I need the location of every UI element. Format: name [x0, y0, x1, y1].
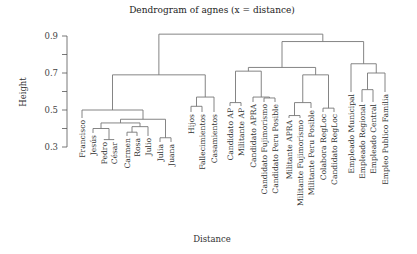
y-axis-label: Height — [18, 77, 28, 107]
leaf-label: Militante Peru Posible — [307, 109, 316, 195]
dendrogram-chart: Dendrogram of agnes (x = distance) 0.30.… — [0, 0, 417, 254]
leaf-label: Empleado Central — [369, 103, 378, 173]
leaf-label: Jesús — [89, 135, 98, 156]
leaf-label: César — [110, 142, 119, 165]
x-axis-label: Distance — [193, 234, 231, 244]
leaf-label: Militante AP — [237, 108, 246, 156]
leaf-label: Empleo Publico Familia — [381, 94, 390, 185]
y-tick-label: 0.7 — [44, 68, 58, 78]
leaf-label: Candidato RegLoc — [330, 114, 339, 185]
leaf-label: Candidato APRA — [249, 103, 258, 167]
leaf-label: Empleado Municipal — [347, 93, 356, 173]
chart-title: Dendrogram of agnes (x = distance) — [129, 5, 295, 15]
leaf-label: Julio — [144, 138, 153, 157]
leaf-label: Fallecimientos — [198, 114, 207, 170]
leaf-label: Juana — [167, 144, 176, 167]
leaf-label: Colabora RegLoc — [319, 114, 328, 180]
leaf-label: Rosa — [133, 138, 142, 157]
leaf-label: Candidato AP — [226, 108, 235, 161]
leaf-label: Pedro — [100, 142, 109, 165]
leaf-label: Empleado Regional — [358, 103, 367, 178]
y-tick-label: 0.9 — [44, 31, 58, 41]
y-axis: 0.30.50.70.9 — [44, 31, 67, 152]
y-tick-label: 0.3 — [44, 142, 58, 152]
leaf-label: Julia — [156, 144, 165, 163]
leaf-label: Candidato Peru Posible — [271, 103, 280, 193]
leaf-label: Candidato Fujimorismo — [260, 104, 269, 195]
leaf-label: Militante Fujimorismo — [296, 120, 305, 206]
leaf-label: Militante APRA — [285, 119, 294, 179]
leaf-label: Francisco — [78, 120, 87, 158]
leaf-label: Casamientos — [210, 114, 219, 163]
leaf-label: Hijos — [187, 114, 196, 134]
y-tick-label: 0.5 — [44, 105, 58, 115]
leaf-label: Carmen — [123, 138, 132, 169]
